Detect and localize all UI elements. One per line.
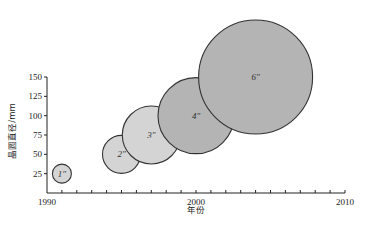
x-tick-label: 1990 bbox=[38, 197, 57, 207]
bubble-1-inch: 1″ bbox=[52, 164, 71, 183]
bubble-6-inch: 6″ bbox=[199, 20, 313, 134]
bubble-label: 3″ bbox=[146, 130, 156, 140]
y-axis-title: 晶圆直径/mm bbox=[7, 103, 17, 158]
y-tick-label: 75 bbox=[33, 130, 43, 140]
bubble-label: 2″ bbox=[117, 149, 126, 159]
x-axis-title: 年份 bbox=[187, 205, 205, 215]
bubble-label: 4″ bbox=[192, 111, 201, 121]
y-tick-label: 25 bbox=[33, 169, 43, 179]
bubble-label: 1″ bbox=[58, 169, 67, 179]
y-tick-label: 125 bbox=[29, 91, 43, 101]
y-tick-label: 100 bbox=[29, 111, 43, 121]
bubbles: 1″2″3″4″6″ bbox=[52, 20, 312, 183]
y-tick-label: 50 bbox=[33, 149, 43, 159]
bubble-label: 6″ bbox=[251, 72, 260, 82]
y-ticks: 255075100125150 bbox=[29, 72, 48, 179]
wafer-diameter-bubble-chart: 1″2″3″4″6″ 199020002010 255075100125150 … bbox=[0, 0, 370, 229]
y-tick-label: 150 bbox=[29, 72, 43, 82]
x-tick-label: 2010 bbox=[336, 197, 355, 207]
